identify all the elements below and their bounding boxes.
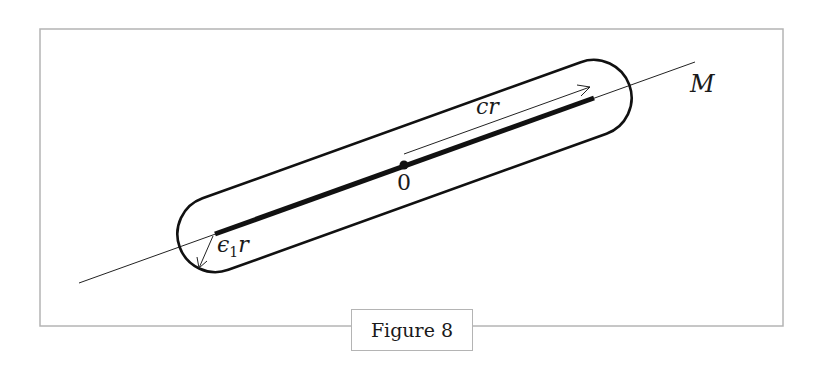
eps-arrowhead-icon bbox=[197, 257, 207, 268]
figure-frame bbox=[40, 29, 783, 326]
radius-label: ϵ1r bbox=[217, 232, 249, 260]
radius-eps: ϵ bbox=[217, 232, 229, 257]
origin-point bbox=[400, 161, 409, 170]
eps-arrow bbox=[199, 236, 213, 268]
radius-sub: 1 bbox=[229, 244, 238, 260]
manifold-label: M bbox=[690, 70, 715, 98]
origin-label: 0 bbox=[397, 170, 411, 195]
radius-r: r bbox=[238, 232, 249, 257]
half-length-label: cr bbox=[476, 94, 499, 119]
figure-caption: Figure 8 bbox=[351, 309, 473, 351]
